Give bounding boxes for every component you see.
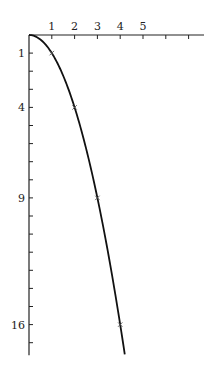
y-tick-label: 4: [18, 101, 25, 114]
y-tick-label: 1: [18, 47, 25, 60]
x-tick-label: 5: [140, 20, 147, 33]
parabola-chart: 1234514916: [0, 0, 215, 378]
y-tick-label: 9: [18, 192, 25, 205]
x-tick-label: 2: [71, 20, 78, 33]
y-tick-label: 16: [11, 319, 25, 332]
x-tick-label: 1: [48, 20, 55, 33]
parabola-curve: [29, 35, 125, 354]
x-tick-label: 3: [94, 20, 101, 33]
x-tick-label: 4: [117, 20, 124, 33]
